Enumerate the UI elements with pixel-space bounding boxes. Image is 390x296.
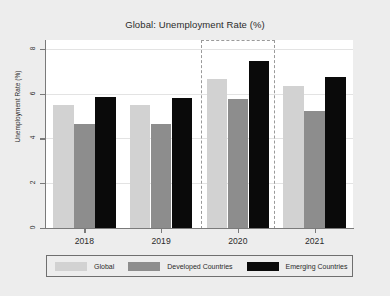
- x-tick-mark: [161, 229, 162, 233]
- x-tick-mark: [238, 229, 239, 233]
- bar-2018-developed-countries: [74, 124, 95, 228]
- x-axis-line: [45, 228, 354, 229]
- bar-2019-global: [130, 105, 151, 228]
- bar-2018-emerging-countries: [95, 97, 116, 228]
- bar-2018-global: [53, 105, 74, 228]
- gridline: [46, 94, 353, 95]
- y-tick-label: 0: [29, 221, 36, 235]
- y-axis-line: [45, 40, 46, 229]
- legend-label: Developed Countries: [167, 263, 232, 270]
- x-tick-label-2018: 2018: [54, 236, 114, 246]
- bar-2019-emerging-countries: [172, 98, 193, 228]
- legend-swatch-icon: [247, 262, 279, 271]
- highlight-box-2020: [201, 40, 276, 229]
- x-tick-label-2020: 2020: [208, 236, 268, 246]
- legend-label: Global: [94, 263, 114, 270]
- gridline: [46, 49, 353, 50]
- legend: GlobalDeveloped CountriesEmerging Countr…: [46, 255, 353, 277]
- bar-2021-developed-countries: [304, 111, 325, 229]
- chart-figure: Global: Unemployment Rate (%) Unemployme…: [0, 0, 390, 296]
- x-tick-mark: [84, 229, 85, 233]
- y-tick-label: 6: [29, 86, 36, 100]
- legend-entry-emerging-countries[interactable]: Emerging Countries: [247, 262, 348, 271]
- legend-swatch-icon: [128, 262, 160, 271]
- legend-entry-developed-countries[interactable]: Developed Countries: [128, 262, 232, 271]
- bar-2021-emerging-countries: [325, 77, 346, 228]
- y-tick-label: 2: [29, 176, 36, 190]
- legend-swatch-icon: [55, 262, 87, 271]
- bar-2019-developed-countries: [151, 124, 172, 228]
- legend-label: Emerging Countries: [286, 263, 348, 270]
- x-tick-label-2019: 2019: [131, 236, 191, 246]
- chart-title: Global: Unemployment Rate (%): [0, 19, 390, 30]
- x-tick-label-2021: 2021: [285, 236, 345, 246]
- y-tick-label: 8: [29, 41, 36, 55]
- y-tick-label: 4: [29, 131, 36, 145]
- x-tick-mark: [315, 229, 316, 233]
- legend-entry-global[interactable]: Global: [55, 262, 114, 271]
- y-axis-title: Unemployment Rate (%): [14, 27, 21, 187]
- bar-2021-global: [283, 86, 304, 228]
